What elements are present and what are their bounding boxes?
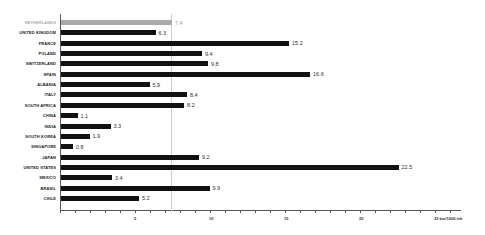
value-label: 8.4 xyxy=(190,92,198,98)
tick-label: 25 km/1000 inh xyxy=(434,216,462,221)
value-label: 9.8 xyxy=(211,61,219,67)
tick-mark xyxy=(300,210,301,213)
category-label: SINGAPORE xyxy=(31,144,56,149)
tick-mark xyxy=(195,210,196,213)
value-label: 3.4 xyxy=(115,175,123,181)
tick-mark xyxy=(90,210,91,213)
category-label: CHINA xyxy=(43,113,56,118)
category-label: UNITED STATES xyxy=(24,165,57,170)
bar xyxy=(61,134,90,139)
tick-mark xyxy=(285,210,286,213)
tick-mark xyxy=(390,210,391,213)
category-label: SWITZERLAND xyxy=(26,61,56,66)
value-label: 22.5 xyxy=(402,164,413,170)
bar xyxy=(61,51,202,56)
tick-mark xyxy=(165,210,166,213)
bar xyxy=(61,175,112,180)
bar xyxy=(61,82,150,87)
value-label: 6.3 xyxy=(159,30,167,36)
category-label: NETHERLANDS xyxy=(25,20,56,25)
tick-mark xyxy=(150,210,151,213)
bar xyxy=(61,20,172,25)
value-label: 0.8 xyxy=(76,144,84,150)
tick-mark xyxy=(405,210,406,213)
tick-label: 15 xyxy=(284,216,288,221)
tick-mark xyxy=(75,210,76,213)
tick-mark xyxy=(120,210,121,213)
bar xyxy=(61,155,199,160)
tick-mark xyxy=(360,210,361,213)
bar xyxy=(61,30,156,35)
tick-mark xyxy=(255,210,256,213)
value-label: 1.1 xyxy=(81,113,89,119)
value-label: 9.4 xyxy=(205,51,213,57)
value-label: 3.3 xyxy=(114,123,122,129)
category-label: SOUTH KOREA xyxy=(25,134,56,139)
bar xyxy=(61,103,184,108)
horizontal-bar-chart: NETHERLANDS7.4UNITED KINGDOM6.3FRANCE15.… xyxy=(0,0,485,235)
category-label: MEXICO xyxy=(40,175,56,180)
category-label: SOUTH AFRICA xyxy=(25,103,56,108)
bar xyxy=(61,92,187,97)
tick-mark xyxy=(375,210,376,213)
tick-mark xyxy=(240,210,241,213)
tick-label: 10 xyxy=(209,216,213,221)
tick-mark xyxy=(60,210,61,213)
value-label: 5.2 xyxy=(142,195,150,201)
category-label: CHILE xyxy=(44,196,57,201)
value-label: 1.9 xyxy=(93,133,101,139)
tick-mark xyxy=(210,210,211,213)
category-label: INDIA xyxy=(45,124,56,129)
tick-mark xyxy=(450,210,451,213)
category-label: SPAIN xyxy=(44,72,56,77)
bar xyxy=(61,61,208,66)
category-label: JAPAN xyxy=(42,155,56,160)
bar xyxy=(61,124,111,129)
bar xyxy=(61,41,289,46)
bar xyxy=(61,165,399,170)
value-label: 8.2 xyxy=(187,102,195,108)
value-label: 9.9 xyxy=(213,185,221,191)
tick-mark xyxy=(270,210,271,213)
tick-mark xyxy=(135,210,136,213)
tick-mark xyxy=(330,210,331,213)
tick-mark xyxy=(420,210,421,213)
bar xyxy=(61,196,139,201)
value-label: 16.6 xyxy=(313,71,324,77)
tick-mark xyxy=(225,210,226,213)
bar xyxy=(61,144,73,149)
tick-mark xyxy=(180,210,181,213)
category-label: ALBANIA xyxy=(37,82,56,87)
tick-mark xyxy=(345,210,346,213)
category-label: FRANCE xyxy=(39,41,56,46)
bar xyxy=(61,186,210,191)
value-label: 9.2 xyxy=(202,154,210,160)
bar xyxy=(61,72,310,77)
category-label: ITALY xyxy=(45,92,56,97)
category-label: POLAND xyxy=(39,51,57,56)
tick-label: 20 xyxy=(359,216,363,221)
tick-label: 5 xyxy=(134,216,136,221)
tick-mark xyxy=(105,210,106,213)
category-label: UNITED KINGDOM xyxy=(19,30,56,35)
category-label: BRASIL xyxy=(41,186,57,191)
value-label: 5.9 xyxy=(153,82,161,88)
tick-mark xyxy=(435,210,436,213)
value-label: 15.2 xyxy=(292,40,303,46)
bar xyxy=(61,113,78,118)
tick-mark xyxy=(315,210,316,213)
value-label: 7.4 xyxy=(175,20,183,26)
